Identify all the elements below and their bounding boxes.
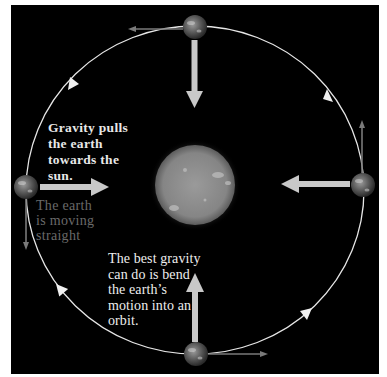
gravity-arrow-right xyxy=(298,181,350,187)
orbit-label-line: the earth’s xyxy=(108,282,201,298)
earth-top xyxy=(183,15,207,39)
earth-right xyxy=(351,173,375,197)
orbit-explanation-label: The best gravity can do is bend the eart… xyxy=(108,251,201,329)
straight-label-line: The earth xyxy=(36,198,94,213)
straight-label-line: straight xyxy=(36,228,94,243)
gravity-label-line: Gravity pulls xyxy=(48,120,128,136)
gravity-label-line: towards the xyxy=(48,152,128,168)
orbit-diagram: Gravity pulls the earth towards the sun.… xyxy=(0,0,387,377)
orbit-label-line: The best gravity xyxy=(108,251,201,267)
straight-label-line: is moving xyxy=(36,213,94,228)
orbit-label-line: motion into an xyxy=(108,298,201,314)
straight-motion-label: The earth is moving straight xyxy=(36,198,94,243)
gravity-label-line: the earth xyxy=(48,136,128,152)
earth-bottom xyxy=(184,342,208,366)
earth-left xyxy=(14,175,38,199)
orbit-label-line: orbit. xyxy=(108,313,201,329)
gravity-label: Gravity pulls the earth towards the sun. xyxy=(48,120,128,184)
sun xyxy=(155,145,235,225)
gravity-label-line: sun. xyxy=(48,168,128,184)
orbit-label-line: can do is bend xyxy=(108,267,201,283)
gravity-arrow-left xyxy=(40,184,92,190)
gravity-arrow-top xyxy=(192,40,198,92)
